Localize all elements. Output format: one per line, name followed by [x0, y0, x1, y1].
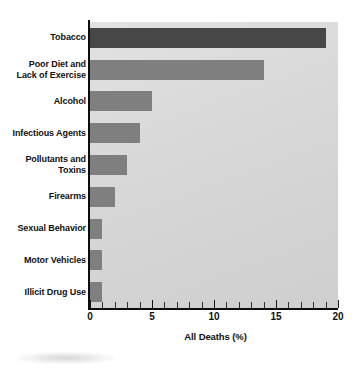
bar-pollutants-and-toxins[interactable]: [90, 155, 127, 175]
x-minor-tick: [140, 302, 141, 308]
x-minor-tick: [202, 302, 203, 308]
bar-fill: [90, 123, 140, 143]
bar-alcohol[interactable]: [90, 91, 152, 111]
category-label-pollutants-and-toxins: Pollutants and Toxins: [25, 154, 86, 176]
bar-infectious-agents[interactable]: [90, 123, 140, 143]
bar-fill: [90, 60, 264, 80]
x-minor-tick: [115, 302, 116, 308]
x-minor-tick: [313, 302, 314, 308]
x-minor-tick: [164, 302, 165, 308]
bar-fill: [90, 250, 102, 270]
x-major-tick: [152, 300, 153, 308]
x-major-tick: [338, 300, 339, 308]
bar-fill: [90, 155, 127, 175]
bar-firearms[interactable]: [90, 187, 115, 207]
x-axis-title: All Deaths (%): [0, 331, 357, 342]
x-tick-label-20: 20: [332, 311, 343, 322]
bar-motor-vehicles[interactable]: [90, 250, 102, 270]
category-label-tobacco: Tobacco: [50, 32, 86, 43]
x-tick-label-0: 0: [87, 311, 93, 322]
category-label-alcohol: Alcohol: [54, 96, 86, 107]
scan-smudge-artifact: [18, 352, 114, 364]
x-axis-line: [88, 308, 338, 310]
x-minor-tick: [127, 302, 128, 308]
category-label-infectious-agents: Infectious Agents: [13, 128, 86, 139]
bar-fill: [90, 282, 102, 302]
x-minor-tick: [177, 302, 178, 308]
bar-fill: [90, 91, 152, 111]
category-label-sexual-behavior: Sexual Behavior: [17, 223, 86, 234]
x-minor-tick: [189, 302, 190, 308]
x-major-tick: [90, 300, 91, 308]
bar-fill: [90, 187, 115, 207]
x-major-tick: [276, 300, 277, 308]
x-axis-title-text: All Deaths (%): [184, 331, 246, 342]
x-minor-tick: [239, 302, 240, 308]
x-minor-tick: [226, 302, 227, 308]
x-minor-tick: [264, 302, 265, 308]
bar-fill: [90, 219, 102, 239]
x-tick-label-15: 15: [270, 311, 281, 322]
category-label-firearms: Firearms: [49, 191, 86, 202]
category-label-poor-diet-and-lack-of-exercise: Poor Diet and Lack of Exercise: [17, 59, 86, 81]
category-label-illicit-drug-use: Illicit Drug Use: [25, 287, 86, 298]
bar-tobacco[interactable]: [90, 28, 326, 48]
x-minor-tick: [251, 302, 252, 308]
x-minor-tick: [301, 302, 302, 308]
bar-illicit-drug-use[interactable]: [90, 282, 102, 302]
x-tick-label-5: 5: [149, 311, 155, 322]
x-minor-tick: [288, 302, 289, 308]
bar-sexual-behavior[interactable]: [90, 219, 102, 239]
bar-chart-figure: TobaccoPoor Diet and Lack of ExerciseAlc…: [0, 0, 357, 368]
bar-fill: [90, 28, 326, 48]
x-minor-tick: [102, 302, 103, 308]
category-label-motor-vehicles: Motor Vehicles: [24, 255, 86, 266]
x-tick-label-10: 10: [208, 311, 219, 322]
x-major-tick: [214, 300, 215, 308]
bar-poor-diet-and-lack-of-exercise[interactable]: [90, 60, 264, 80]
x-minor-tick: [326, 302, 327, 308]
